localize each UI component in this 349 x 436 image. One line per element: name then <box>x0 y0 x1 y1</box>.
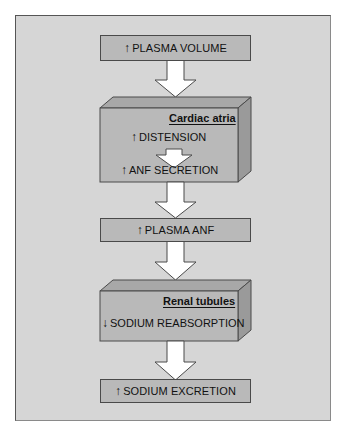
down-arrow-icon: ↓ <box>102 317 108 329</box>
sodium-reabsorption-line: ↓ SODIUM REABSORPTION <box>102 317 244 329</box>
up-arrow-icon: ↑ <box>121 164 127 176</box>
distension-line: ↑ DISTENSION <box>131 131 206 143</box>
sodium-excretion-box: ↑ SODIUM EXCRETION <box>100 379 251 403</box>
anf-secretion-line: ↑ ANF SECRETION <box>121 164 218 176</box>
up-arrow-icon: ↑ <box>124 42 130 54</box>
down-arrow-icon <box>155 241 196 280</box>
plasma-volume-label: PLASMA VOLUME <box>132 42 227 54</box>
anf-secretion-label: ANF SECRETION <box>129 164 218 176</box>
sodium-reabsorption-label: SODIUM REABSORPTION <box>110 317 244 329</box>
plasma-volume-box: ↑ PLASMA VOLUME <box>100 35 251 61</box>
up-arrow-icon: ↑ <box>115 385 121 397</box>
down-arrow-icon <box>155 60 196 97</box>
down-arrow-icon <box>155 182 196 218</box>
distension-label: DISTENSION <box>139 131 206 143</box>
sodium-excretion-label: SODIUM EXCRETION <box>123 385 236 397</box>
up-arrow-icon: ↑ <box>131 131 137 143</box>
renal-tubules-title: Renal tubules <box>163 295 235 307</box>
plasma-anf-label: PLASMA ANF <box>145 224 214 236</box>
up-arrow-icon: ↑ <box>137 224 143 236</box>
plasma-anf-box: ↑ PLASMA ANF <box>100 218 251 242</box>
cardiac-atria-title: Cardiac atria <box>169 112 236 124</box>
down-arrow-icon <box>155 341 196 380</box>
renal-tubules-block <box>100 280 251 341</box>
